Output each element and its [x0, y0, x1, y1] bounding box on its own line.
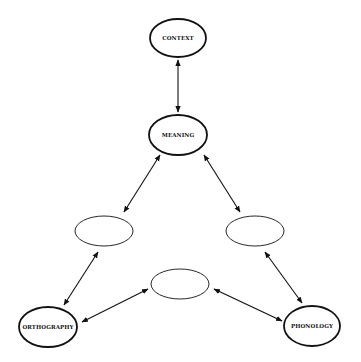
node-context: CONTEXT — [150, 19, 206, 57]
label-orthography: ORTHOGRAPHY — [22, 324, 73, 330]
label-meaning: MEANING — [162, 132, 195, 138]
diagram-canvas: CONTEXTMEANINGORTHOGRAPHYPHONOLOGY — [0, 0, 361, 362]
arrow-middle-empty-orthography — [82, 289, 148, 322]
node-orthography: ORTHOGRAPHY — [19, 307, 77, 347]
node-middle-empty — [151, 269, 209, 299]
arrow-meaning-right-empty — [204, 155, 240, 212]
node-meaning: MEANING — [149, 115, 207, 155]
arrow-meaning-left-empty — [124, 155, 160, 212]
label-phonology: PHONOLOGY — [291, 323, 333, 329]
arrow-right-empty-phonology — [265, 252, 302, 303]
ellipse-middle-empty — [151, 269, 209, 299]
node-phonology: PHONOLOGY — [284, 306, 340, 346]
ellipse-left-empty — [75, 216, 133, 246]
ellipse-right-empty — [226, 216, 284, 246]
diagram-svg: CONTEXTMEANINGORTHOGRAPHYPHONOLOGY — [0, 0, 361, 362]
node-right-empty — [226, 216, 284, 246]
label-context: CONTEXT — [162, 35, 194, 41]
arrow-middle-empty-phonology — [214, 289, 282, 321]
node-left-empty — [75, 216, 133, 246]
arrow-left-empty-orthography — [64, 252, 98, 305]
